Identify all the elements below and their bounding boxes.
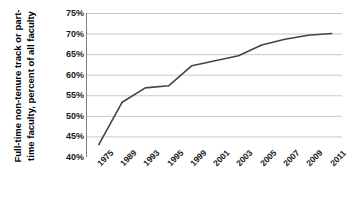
y-axis-tick-label: 60% [52,70,84,80]
y-axis-tick-labels: 75%70%65%60%55%50%45%40% [48,0,84,172]
plot-area [86,13,342,157]
y-axis-tick-label: 55% [52,90,84,100]
y-axis-tick-label: 45% [52,131,84,141]
y-axis-title-line-2: time faculty, percent of all faculty [24,9,37,162]
y-axis-tick-label: 70% [52,29,84,39]
y-axis-title: Full-time non-tenure track or part- time… [0,0,48,172]
y-axis-tick-label: 75% [52,8,84,18]
y-axis-tick-label: 65% [52,49,84,59]
x-axis-tick-labels: 1975198919931995199920012003200520072009… [0,157,361,197]
plot-svg [86,13,342,157]
data-series-line [99,34,332,145]
gridlines [86,14,342,158]
y-axis-tick-label: 50% [52,111,84,121]
y-axis-title-line-1: Full-time non-tenure track or part- [11,9,24,162]
chart-container: Full-time non-tenure track or part- time… [0,0,361,197]
